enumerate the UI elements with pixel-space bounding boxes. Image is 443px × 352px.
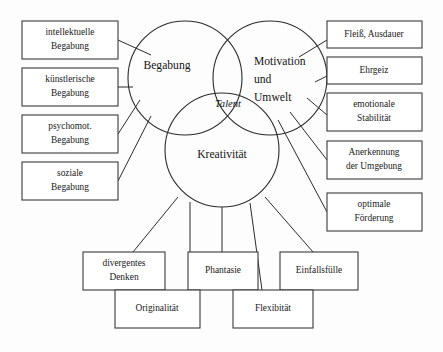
box-line-2: der Umgebung bbox=[346, 161, 402, 171]
right-box-anerkennung[interactable]: Anerkennung der Umgebung bbox=[327, 141, 422, 179]
box-line-1: psychomot. bbox=[48, 121, 92, 131]
box-line-1: Originalität bbox=[135, 303, 179, 313]
connector-emotionale bbox=[307, 98, 327, 115]
right-box-ehrgeiz[interactable]: Ehrgeiz bbox=[327, 57, 422, 84]
motivation-line-3: Umwelt bbox=[254, 91, 292, 104]
connector-einfallsfuelle bbox=[265, 197, 313, 252]
bottom-box-flexibitaet[interactable]: Flexibität bbox=[233, 290, 313, 328]
box-line-2: Stabilität bbox=[357, 113, 391, 123]
box-line-2: Begabung bbox=[51, 135, 89, 145]
box-line-1: Ehrgeiz bbox=[360, 65, 389, 75]
diagram-canvas: Begabung Motivation und Umwelt Kreativit… bbox=[0, 0, 443, 352]
box-line-2: Denken bbox=[109, 272, 138, 282]
box-line-2: Begabung bbox=[51, 41, 89, 51]
bottom-box-originalitaet[interactable]: Originalität bbox=[115, 290, 200, 328]
box-line-1: optimale bbox=[358, 199, 391, 209]
left-box-soziale[interactable]: soziale Begabung bbox=[22, 162, 118, 200]
box-line-1: Fleiß, Ausdauer bbox=[344, 29, 404, 39]
left-box-psychomot[interactable]: psychomot. Begabung bbox=[22, 115, 118, 153]
box-line-2: Begabung bbox=[51, 182, 89, 192]
motivation-line-1: Motivation bbox=[254, 55, 306, 68]
box-line-1: Phantasie bbox=[205, 265, 241, 275]
bottom-box-divergentes[interactable]: divergentes Denken bbox=[83, 252, 165, 290]
right-box-fleiss[interactable]: Fleiß, Ausdauer bbox=[327, 21, 422, 48]
connector-divergentes bbox=[133, 197, 178, 252]
box-line-1: Einfallsfülle bbox=[296, 265, 342, 275]
box-line-1: Anerkennung bbox=[348, 147, 399, 157]
left-box-intellektuelle[interactable]: intellektuelle Begabung bbox=[22, 21, 118, 59]
circle-begabung bbox=[128, 21, 242, 135]
right-box-emotionale[interactable]: emotionale Stabilität bbox=[327, 93, 422, 131]
circle-label-motivation-umwelt: Motivation und Umwelt bbox=[254, 55, 306, 104]
left-box-kuenstlerische[interactable]: künstlerische Begabung bbox=[22, 68, 118, 106]
center-label-talent: Talent bbox=[215, 98, 242, 109]
motivation-line-2: und bbox=[254, 73, 272, 86]
bottom-box-einfallsfuelle[interactable]: Einfallsfülle bbox=[280, 252, 358, 290]
box-line-1: Flexibität bbox=[255, 303, 291, 313]
box-line-1: emotionale bbox=[353, 99, 395, 109]
bottom-box-phantasie[interactable]: Phantasie bbox=[188, 252, 258, 290]
box-line-1: soziale bbox=[57, 168, 83, 178]
talent-venn-diagram: Begabung Motivation und Umwelt Kreativit… bbox=[0, 0, 443, 352]
box-line-1: divergentes bbox=[102, 258, 145, 268]
connector-psychomot bbox=[118, 100, 140, 134]
right-box-optimale[interactable]: optimale Förderung bbox=[327, 193, 422, 231]
circle-label-kreativitaet: Kreativität bbox=[197, 148, 247, 161]
box-line-1: intellektuelle bbox=[46, 27, 95, 37]
circle-label-begabung: Begabung bbox=[143, 59, 190, 72]
box-line-1: künstlerische bbox=[45, 74, 94, 84]
connector-optimale bbox=[278, 120, 327, 212]
box-line-2: Förderung bbox=[354, 213, 393, 223]
box-line-2: Begabung bbox=[51, 88, 89, 98]
connector-ehrgeiz bbox=[315, 76, 327, 82]
